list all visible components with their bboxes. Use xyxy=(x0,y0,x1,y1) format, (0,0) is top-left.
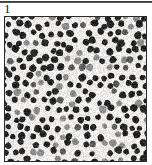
figure-panel: 1 xyxy=(0,0,152,165)
micrograph-frame xyxy=(4,16,147,162)
micrograph-image xyxy=(5,17,146,161)
figure-label: 1 xyxy=(4,2,11,16)
horizontal-rule xyxy=(0,1,152,3)
